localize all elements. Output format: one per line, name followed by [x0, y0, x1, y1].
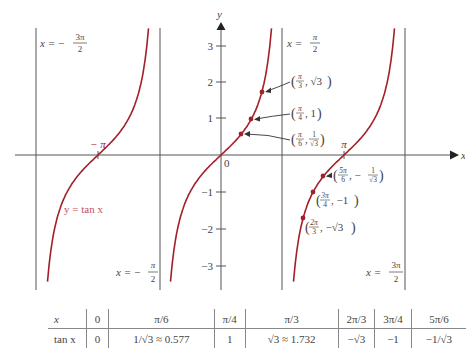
- table-header-row: x 0 π/6 π/4 π/3 2π/3 3π/4 5π/6: [48, 309, 466, 329]
- svg-text:2: 2: [313, 44, 318, 54]
- svg-text:−1: −1: [201, 186, 213, 198]
- label-pi-6: ( π 6 , 1 √3 ): [291, 130, 325, 148]
- label-pi-3: ( π 3 , √3 ): [291, 72, 332, 90]
- svg-text:π: π: [298, 130, 302, 139]
- svg-text:1: 1: [312, 130, 316, 139]
- svg-text:4: 4: [298, 113, 302, 122]
- svg-text:2: 2: [78, 44, 83, 54]
- svg-text:π: π: [151, 260, 156, 270]
- table-cell: tan x: [48, 329, 86, 349]
- svg-text:(: (: [291, 74, 296, 90]
- table-header-cell: 0: [86, 309, 109, 329]
- svg-text:2: 2: [394, 274, 399, 284]
- svg-text:2π: 2π: [310, 218, 318, 227]
- svg-text:π: π: [298, 104, 302, 113]
- label-3pi-4: ( 3π 4 , −1 ): [316, 191, 359, 209]
- label-pi-4: ( π 4 , 1 ): [291, 104, 322, 122]
- y-ticks: 3 2 1 −1 −2 −3: [201, 40, 226, 272]
- svg-text:(: (: [291, 132, 296, 148]
- curve-label: y = tan x: [64, 203, 103, 215]
- svg-text:−3: −3: [201, 260, 213, 272]
- table-header-cell: 5π/6: [411, 309, 466, 329]
- svg-text:): ): [351, 220, 356, 236]
- svg-text:, −1: , −1: [331, 194, 348, 206]
- table-header-cell: π/6: [109, 309, 214, 329]
- svg-text:6: 6: [298, 139, 302, 148]
- svg-text:, −: , −: [349, 169, 361, 181]
- svg-text:): ): [354, 193, 359, 209]
- svg-text:x =: x =: [286, 37, 302, 49]
- svg-text:√3: √3: [369, 175, 377, 184]
- svg-text:2: 2: [151, 274, 156, 284]
- svg-text:x =: x =: [365, 266, 381, 278]
- svg-text:2: 2: [208, 76, 214, 88]
- asymptote-label-3pi-2: x = 3π 2: [365, 260, 403, 284]
- table-header-cell: x: [48, 309, 86, 329]
- values-table: x 0 π/6 π/4 π/3 2π/3 3π/4 5π/6 tan x 0 1…: [48, 309, 466, 348]
- x-axis-arrow-icon: [450, 151, 459, 160]
- svg-text:): ): [327, 74, 332, 90]
- table-header-cell: π/4: [214, 309, 245, 329]
- asymptote-label-neg-3pi-2: x = − 3π 2: [39, 32, 87, 54]
- label-5pi-6: ( 5π 6 , − 1 √3 ): [333, 166, 384, 184]
- svg-text:1: 1: [208, 112, 214, 124]
- arrow-heads: [244, 88, 332, 179]
- table-header-cell: 2π/3: [338, 309, 375, 329]
- label-2pi-3: ( 2π 3 , −√3 ): [305, 218, 356, 236]
- table-cell: −1: [375, 329, 412, 349]
- pi-label: π: [341, 138, 347, 150]
- svg-text:, 1: , 1: [305, 107, 316, 119]
- svg-text:3π: 3π: [75, 32, 85, 42]
- tangent-graph: x y 3 2 1 −1 −2 −3 − π π 0: [0, 0, 465, 305]
- callout-arrows: [246, 82, 332, 176]
- table-cell: 1: [214, 329, 245, 349]
- svg-text:): ): [320, 132, 325, 148]
- y-axis-arrow-icon: [217, 22, 226, 30]
- svg-text:): ): [317, 106, 322, 122]
- origin-label: 0: [224, 157, 230, 169]
- svg-text:x = −: x = −: [39, 37, 65, 49]
- svg-text:5π: 5π: [339, 166, 347, 175]
- table-cell: 0: [86, 329, 109, 349]
- svg-text:3π: 3π: [320, 191, 329, 200]
- asymptote-label-pi-2: x = π 2: [286, 32, 320, 54]
- y-axis-label: y: [216, 8, 222, 20]
- svg-text:1: 1: [371, 166, 375, 175]
- svg-text:π: π: [298, 72, 302, 81]
- svg-text:(: (: [333, 168, 338, 184]
- svg-text:−2: −2: [201, 223, 213, 235]
- x-axis-label: x: [460, 149, 465, 161]
- table-cell: √3 ≈ 1.732: [245, 329, 338, 349]
- svg-text:3π: 3π: [391, 260, 401, 270]
- svg-text:, √3: , √3: [305, 75, 323, 87]
- asymptote-label-neg-pi-2: x = − π 2: [115, 260, 158, 284]
- table-cell: 1/√3 ≈ 0.577: [109, 329, 214, 349]
- svg-text:(: (: [291, 106, 296, 122]
- table-cell: −√3: [338, 329, 375, 349]
- svg-text:√3: √3: [310, 139, 318, 148]
- table-cell: −1/√3: [411, 329, 466, 349]
- svg-text:): ): [379, 168, 384, 184]
- svg-text:3: 3: [298, 81, 302, 90]
- svg-text:4: 4: [323, 200, 327, 209]
- table-header-cell: 3π/4: [375, 309, 412, 329]
- svg-text:3: 3: [208, 40, 214, 52]
- table-header-cell: π/3: [245, 309, 338, 329]
- svg-text:6: 6: [341, 175, 345, 184]
- svg-text:3: 3: [312, 227, 316, 236]
- svg-text:, −√3: , −√3: [320, 221, 344, 233]
- table-row: tan x 0 1/√3 ≈ 0.577 1 √3 ≈ 1.732 −√3 −1…: [48, 329, 466, 349]
- svg-text:,: ,: [305, 133, 308, 145]
- svg-text:π: π: [313, 32, 318, 42]
- svg-text:x = −: x = −: [115, 266, 141, 278]
- neg-pi-label: − π: [90, 138, 106, 150]
